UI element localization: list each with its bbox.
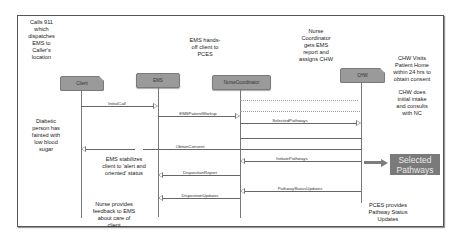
message-initiate-pathways: [245, 161, 361, 162]
note-ems-handoff: EMS hands-off client to PCES: [188, 37, 222, 58]
arrowhead-icon: [81, 146, 86, 152]
arrowhead-icon: [158, 195, 163, 201]
message-disposition-report: [163, 175, 240, 176]
message-pathway-status-updates-label: PathwayStatusUpdates: [277, 186, 324, 191]
lifeline-nurse-coordinator-label: NurseCoordinator: [224, 80, 260, 85]
lifeline-chw-label: CHW: [357, 73, 368, 78]
lifeline-chw-line: [361, 83, 362, 203]
lifeline-ems-label: EMS: [153, 78, 163, 83]
message-disposition-updates: [163, 198, 240, 199]
arrowhead-icon: [158, 172, 163, 178]
dotted-line-2: [240, 111, 360, 112]
note-chw-intake: CHW does initial intake and consults wit…: [392, 89, 432, 117]
note-ems-stabilizes: EMS stabilizes client to 'alert and orie…: [100, 156, 148, 177]
message-selected-pathways-label: SelectedPathways: [271, 118, 308, 123]
note-nurse-gets-report: Nurse Coordinator gets EMS report and as…: [296, 28, 336, 63]
lifeline-client: Client: [60, 76, 104, 91]
lifeline-nurse-coordinator: NurseCoordinator: [212, 75, 271, 90]
dotted-line-1: [240, 100, 358, 101]
lifeline-ems: EMS: [136, 73, 180, 88]
selected-pathways-callout: Selected Pathways: [390, 154, 440, 175]
arrowhead-icon: [235, 113, 240, 119]
message-disposition-report-label: DispositionReport: [182, 170, 218, 175]
message-obtain-consent-label: ObtainConsent: [175, 144, 206, 149]
lifeline-client-line: [81, 90, 82, 218]
block-arrow-head-icon: [381, 159, 388, 167]
message-selected-pathways: [240, 123, 356, 124]
block-arrow-icon: [364, 161, 382, 164]
message-disposition-updates-label: DispositionUpdates: [180, 193, 219, 198]
note-nurse-feedback: Nurse provides feedback to EMS about car…: [92, 201, 136, 229]
lifeline-client-label: Client: [76, 81, 88, 86]
note-diabetic: Diabetic person has fainted with low blo…: [29, 118, 63, 153]
message-initial-call: [81, 106, 153, 107]
note-pces-updates: PCES provides Pathway Status Updates: [366, 202, 410, 223]
arrowhead-icon: [356, 120, 361, 126]
message-obtain-consent-b: [143, 149, 361, 150]
message-ems-patient-workup: [158, 116, 235, 117]
message-initial-call-label: InitialCall: [107, 101, 126, 106]
lifeline-nurse-line: [240, 90, 241, 218]
message-ems-patient-workup-label: EMSPatientWorkup: [178, 111, 217, 116]
lifeline-chw: CHW: [340, 68, 385, 83]
note-calls-911: Calls 911 which dispatches EMS to Caller…: [25, 19, 58, 61]
arrowhead-icon: [153, 103, 158, 109]
arrowhead-icon: [240, 188, 245, 194]
message-obtain-consent-a: [86, 149, 135, 150]
arrowhead-icon: [240, 158, 245, 164]
message-pathway-status-updates: [245, 191, 361, 192]
note-chw-visits: CHW Visits Patient Home within 24 hrs to…: [390, 55, 434, 83]
activation-line: [240, 138, 361, 139]
message-initiate-pathways-label: InitiatePathways: [275, 156, 308, 161]
